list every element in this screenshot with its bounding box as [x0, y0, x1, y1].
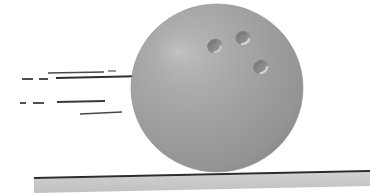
bowling-scene-svg [0, 0, 370, 195]
illustration-canvas [0, 0, 370, 195]
bowling-ball [131, 4, 303, 172]
speed-line-1 [48, 72, 104, 73]
ball-highlight [152, 30, 204, 74]
speed-line-8 [57, 101, 105, 102]
ball-body [131, 4, 303, 172]
